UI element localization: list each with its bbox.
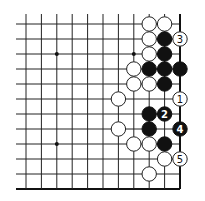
white-stone-circle xyxy=(142,47,156,61)
black-stone xyxy=(142,122,156,136)
black-stone-circle xyxy=(157,137,171,151)
black-stone-circle xyxy=(157,77,171,91)
black-stone-circle xyxy=(157,32,171,46)
black-stone xyxy=(142,62,156,76)
white-stone-circle xyxy=(127,77,141,91)
black-stone-circle xyxy=(157,47,171,61)
white-stone-circle xyxy=(111,122,125,136)
black-stone-circle xyxy=(142,107,156,121)
white-stone xyxy=(111,92,125,106)
black-stone xyxy=(157,137,171,151)
black-stone-move-2: 2 xyxy=(157,107,171,121)
move-number-label: 5 xyxy=(177,154,183,165)
star-point xyxy=(132,52,136,56)
white-stone-circle xyxy=(127,137,141,151)
star-point xyxy=(55,52,59,56)
white-stone xyxy=(127,77,141,91)
black-stone-circle xyxy=(142,62,156,76)
move-number-label: 4 xyxy=(177,124,184,135)
white-stone xyxy=(142,167,156,181)
move-number-label: 1 xyxy=(177,94,183,105)
black-stone xyxy=(173,62,187,76)
black-stone xyxy=(157,62,171,76)
move-number-label: 2 xyxy=(161,109,168,120)
white-stone-circle xyxy=(142,32,156,46)
white-stone xyxy=(157,152,171,166)
white-stone-circle xyxy=(127,62,141,76)
white-stone xyxy=(142,17,156,31)
white-stone-circle xyxy=(142,77,156,91)
white-stone xyxy=(127,62,141,76)
black-stone-move-4: 4 xyxy=(173,122,187,136)
go-board: 31245 xyxy=(0,0,205,201)
white-stone xyxy=(142,32,156,46)
white-stone-circle xyxy=(142,17,156,31)
white-stone-move-1: 1 xyxy=(173,92,187,106)
black-stone xyxy=(157,47,171,61)
white-stone-move-3: 3 xyxy=(173,32,187,46)
white-stone xyxy=(142,77,156,91)
white-stone xyxy=(157,17,171,31)
black-stone-circle xyxy=(173,62,187,76)
black-stone-circle xyxy=(142,122,156,136)
white-stone-circle xyxy=(157,152,171,166)
move-number-label: 3 xyxy=(177,34,183,45)
white-stone-circle xyxy=(142,137,156,151)
white-stone-circle xyxy=(142,167,156,181)
white-stone xyxy=(111,122,125,136)
black-stone xyxy=(142,107,156,121)
white-stone xyxy=(142,47,156,61)
black-stone xyxy=(157,77,171,91)
black-stone xyxy=(157,32,171,46)
white-stone-circle xyxy=(111,92,125,106)
white-stone xyxy=(127,137,141,151)
star-point xyxy=(55,142,59,146)
white-stone xyxy=(142,137,156,151)
black-stone-circle xyxy=(157,62,171,76)
white-stone-circle xyxy=(157,17,171,31)
white-stone-move-5: 5 xyxy=(173,152,187,166)
